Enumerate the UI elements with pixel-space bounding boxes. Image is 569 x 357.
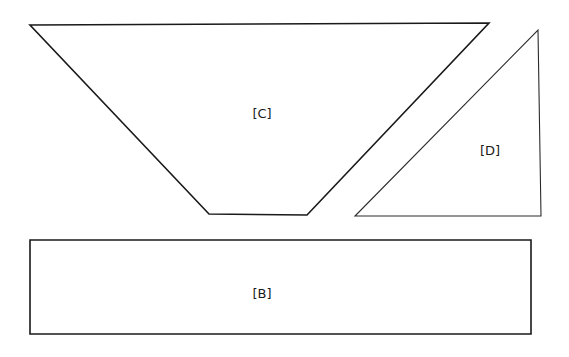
diagram-canvas	[0, 0, 569, 357]
label-b: [B]	[252, 286, 271, 301]
shape-b-rectangle	[30, 240, 531, 334]
shape-d-triangle	[355, 30, 541, 216]
label-d: [D]	[480, 143, 500, 158]
label-c: [C]	[252, 106, 271, 121]
